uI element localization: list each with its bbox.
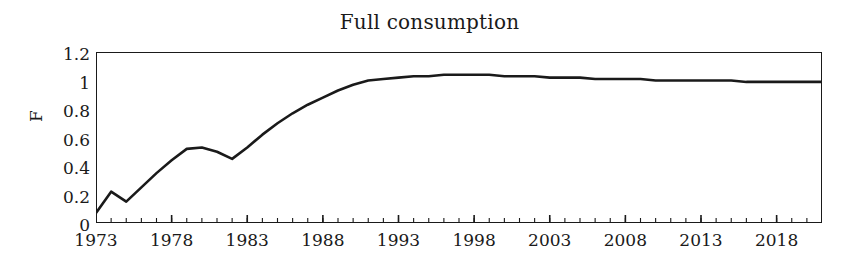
x-tick-label: 2008 bbox=[595, 232, 655, 249]
y-tick-label: 1 bbox=[50, 75, 90, 92]
y-tick-label: 0.6 bbox=[50, 132, 90, 149]
x-tick-label: 1998 bbox=[444, 232, 504, 249]
x-axis-tick-labels: 1973197819831988199319982003200820132018 bbox=[96, 232, 822, 256]
y-axis-label: F bbox=[26, 110, 46, 122]
x-tick-label: 2013 bbox=[671, 232, 731, 249]
data-series-line bbox=[96, 75, 822, 213]
chart-container: Full consumption F 1.2 1 0.8 0.6 0.4 0.2… bbox=[0, 0, 859, 279]
chart-title: Full consumption bbox=[0, 10, 859, 34]
y-tick-label: 0.8 bbox=[50, 103, 90, 120]
plot-wrapper bbox=[96, 52, 822, 223]
x-axis-minor-ticks bbox=[96, 218, 822, 223]
x-tick-label: 1983 bbox=[217, 232, 277, 249]
y-axis-tick-labels: 1.2 1 0.8 0.6 0.4 0.2 0 bbox=[44, 52, 90, 223]
x-tick-label: 1988 bbox=[293, 232, 353, 249]
x-tick-label: 1973 bbox=[66, 232, 126, 249]
x-tick-label: 2018 bbox=[747, 232, 807, 249]
y-tick-label: 1.2 bbox=[50, 46, 90, 63]
y-tick-label: 0.4 bbox=[50, 160, 90, 177]
x-axis-major-ticks bbox=[96, 215, 777, 223]
y-tick-label: 0.2 bbox=[50, 189, 90, 206]
x-tick-label: 1978 bbox=[142, 232, 202, 249]
x-tick-label: 2003 bbox=[520, 232, 580, 249]
plot-svg bbox=[96, 52, 822, 223]
x-tick-label: 1993 bbox=[369, 232, 429, 249]
